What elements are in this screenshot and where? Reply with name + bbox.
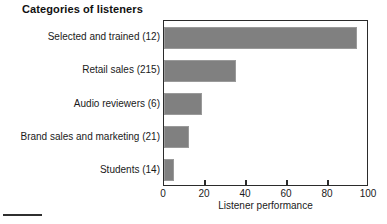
x-axis-title: Listener performance <box>163 200 368 211</box>
bar <box>164 159 174 181</box>
bar-row <box>164 93 369 115</box>
x-axis-tick-mark <box>245 180 247 186</box>
bar-chart: Categories of listeners Selected and tra… <box>0 0 387 224</box>
x-axis-tick-label: 100 <box>360 188 377 199</box>
x-axis-tick-mark <box>204 180 206 186</box>
x-axis-tick-label: 0 <box>160 188 166 199</box>
y-axis-label: Brand sales and marketing (21) <box>2 131 160 142</box>
scan-artifact-line <box>3 214 42 216</box>
plot-area <box>163 20 368 186</box>
x-axis-tick-label: 60 <box>280 188 291 199</box>
y-axis-category-labels: Selected and trained (12)Retail sales (2… <box>0 20 160 186</box>
bar <box>164 27 357 49</box>
y-axis-label: Students (14) <box>2 164 160 175</box>
y-axis-label: Selected and trained (12) <box>2 31 160 42</box>
x-axis-tick-label: 80 <box>321 188 332 199</box>
x-axis-tick-mark <box>286 180 288 186</box>
x-axis-tick-label: 20 <box>198 188 209 199</box>
y-axis-label: Audio reviewers (6) <box>2 98 160 109</box>
bar <box>164 93 202 115</box>
bar <box>164 60 236 82</box>
bar-row <box>164 159 369 181</box>
y-axis-label: Retail sales (215) <box>2 64 160 75</box>
bar <box>164 126 189 148</box>
bar-row <box>164 60 369 82</box>
bar-row <box>164 27 369 49</box>
x-axis-tick-mark <box>327 180 329 186</box>
chart-title: Categories of listeners <box>22 3 143 15</box>
x-axis-tick-label: 40 <box>239 188 250 199</box>
bar-row <box>164 126 369 148</box>
